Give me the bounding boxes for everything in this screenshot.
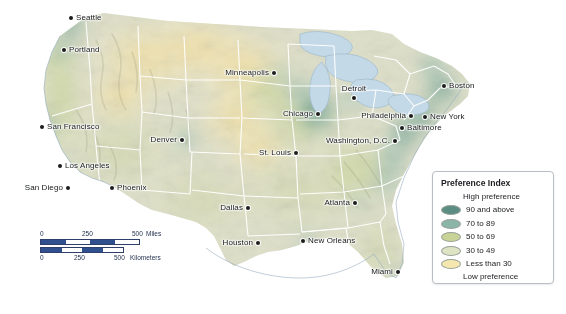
legend-row: 90 and above bbox=[441, 204, 545, 218]
scale-bar-kilometers bbox=[40, 247, 124, 253]
scale-bar: 0 250 500 Miles 0 250 500 Kilometers bbox=[40, 231, 144, 264]
legend-label: 90 and above bbox=[466, 206, 515, 214]
legend-high-label: High preference bbox=[463, 193, 545, 201]
legend-swatch bbox=[441, 232, 461, 242]
legend-swatch bbox=[441, 219, 461, 229]
legend-items: 90 and above70 to 8950 to 6930 to 49Less… bbox=[441, 204, 545, 272]
legend-row: 50 to 69 bbox=[441, 231, 545, 245]
legend-swatch bbox=[441, 205, 461, 215]
scale-miles-tick-250: 250 bbox=[82, 231, 93, 238]
legend-swatch bbox=[441, 259, 461, 269]
legend-label: 70 to 89 bbox=[466, 220, 495, 228]
legend-low-label: Low preference bbox=[463, 273, 545, 281]
map-screenshot: SeattlePortlandSan FranciscoLos AngelesS… bbox=[0, 0, 566, 314]
scale-bar-miles bbox=[40, 239, 140, 245]
scale-km-tick-250: 250 bbox=[74, 255, 85, 262]
legend-label: Less than 30 bbox=[466, 260, 512, 268]
legend-label: 30 to 49 bbox=[466, 247, 495, 255]
map-legend: Preference Index High preference 90 and … bbox=[432, 171, 554, 284]
scale-km-unit: Kilometers bbox=[130, 255, 161, 262]
legend-row: 30 to 49 bbox=[441, 244, 545, 258]
legend-title: Preference Index bbox=[441, 179, 545, 188]
scale-miles-tick-500: 500 bbox=[132, 231, 143, 238]
scale-km-tick-500: 500 bbox=[114, 255, 125, 262]
scale-miles-tick-0: 0 bbox=[40, 231, 44, 238]
scale-km-tick-0: 0 bbox=[40, 255, 44, 262]
legend-label: 50 to 69 bbox=[466, 233, 495, 241]
legend-swatch bbox=[441, 246, 461, 256]
legend-row: 70 to 89 bbox=[441, 217, 545, 231]
legend-row: Less than 30 bbox=[441, 258, 545, 272]
scale-miles-unit: Miles bbox=[146, 231, 161, 238]
